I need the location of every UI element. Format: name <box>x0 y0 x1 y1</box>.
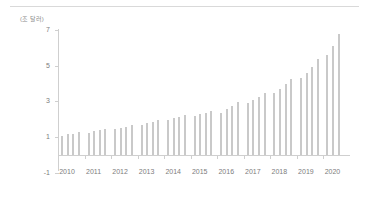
bar <box>237 102 239 155</box>
bar <box>146 123 148 155</box>
bar <box>72 134 74 155</box>
y-tick-label: 7 <box>28 26 50 33</box>
bar <box>167 120 169 155</box>
bar <box>311 67 313 155</box>
bar <box>120 128 122 155</box>
bar <box>114 129 116 155</box>
bar <box>125 127 127 155</box>
bar <box>317 59 319 155</box>
bar <box>157 120 159 155</box>
bar <box>231 106 233 155</box>
bar <box>78 132 80 155</box>
bar <box>67 134 69 155</box>
chart-figure: (조 달러) 7531-1 20102011201220132014201520… <box>0 0 369 202</box>
bar <box>173 118 175 155</box>
y-tick-label: -1 <box>28 169 50 176</box>
bar <box>88 133 90 155</box>
bar <box>199 114 201 155</box>
bar-series <box>58 0 350 202</box>
bar <box>326 55 328 155</box>
bar <box>99 130 101 155</box>
bar <box>205 113 207 155</box>
y-tick-label: 1 <box>28 133 50 140</box>
bar <box>178 117 180 155</box>
bar <box>338 34 340 155</box>
bar <box>141 125 143 155</box>
bar <box>300 78 302 155</box>
bar <box>104 129 106 155</box>
bar <box>152 122 154 155</box>
bar <box>264 93 266 156</box>
bar <box>184 115 186 155</box>
bar <box>93 131 95 155</box>
y-tick-label: 3 <box>28 97 50 104</box>
bar <box>247 103 249 155</box>
bar <box>252 100 254 155</box>
bar <box>258 97 260 155</box>
bar <box>210 111 212 155</box>
bar <box>226 109 228 155</box>
bar <box>220 113 222 155</box>
bar <box>273 93 275 155</box>
bar <box>131 125 133 155</box>
bar <box>306 73 308 155</box>
bar <box>332 46 334 155</box>
bar <box>285 84 287 155</box>
bar <box>61 136 63 155</box>
bar <box>194 116 196 155</box>
bar <box>279 89 281 155</box>
y-axis-unit-label: (조 달러) <box>20 15 44 24</box>
bar <box>290 79 292 155</box>
y-tick-label: 5 <box>28 62 50 69</box>
